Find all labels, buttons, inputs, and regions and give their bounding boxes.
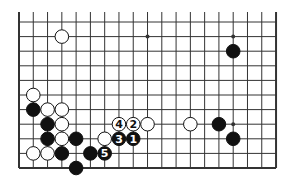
stone-body bbox=[41, 117, 55, 131]
white-stone bbox=[55, 30, 69, 44]
stone-body bbox=[41, 103, 55, 117]
stone-body bbox=[26, 88, 40, 102]
white-stone bbox=[41, 147, 55, 161]
black-stone-3: 3 bbox=[112, 132, 126, 146]
black-stone bbox=[226, 132, 240, 146]
white-stone bbox=[55, 132, 69, 146]
black-stone bbox=[41, 117, 55, 131]
stone-body bbox=[55, 147, 69, 161]
stone-body bbox=[226, 44, 240, 58]
stone-body bbox=[41, 147, 55, 161]
move-number-label: 5 bbox=[101, 147, 109, 160]
stone-body bbox=[98, 132, 112, 146]
white-stone bbox=[55, 103, 69, 117]
move-number-label: 3 bbox=[115, 133, 123, 146]
black-stone bbox=[69, 132, 83, 146]
stone-body bbox=[55, 30, 69, 44]
move-number-label: 2 bbox=[129, 118, 137, 131]
star-point bbox=[231, 35, 235, 39]
stone-body bbox=[184, 117, 198, 131]
black-stone-1: 1 bbox=[126, 132, 140, 146]
go-board-diagram: 42315 bbox=[0, 0, 287, 188]
black-stone bbox=[69, 161, 83, 175]
white-stone bbox=[98, 132, 112, 146]
white-stone bbox=[26, 88, 40, 102]
stone-body bbox=[141, 117, 155, 131]
white-stone bbox=[141, 117, 155, 131]
move-number-label: 4 bbox=[115, 118, 123, 131]
stone-body bbox=[84, 147, 98, 161]
black-stone bbox=[41, 132, 55, 146]
stone-body bbox=[55, 132, 69, 146]
stone-body bbox=[26, 147, 40, 161]
stone-body bbox=[69, 161, 83, 175]
white-stone bbox=[55, 117, 69, 131]
black-stone bbox=[55, 147, 69, 161]
white-stone bbox=[41, 103, 55, 117]
white-stone bbox=[184, 117, 198, 131]
stone-body bbox=[226, 132, 240, 146]
star-point bbox=[231, 122, 235, 126]
stone-body bbox=[26, 103, 40, 117]
black-stone bbox=[84, 147, 98, 161]
white-stone-4: 4 bbox=[112, 117, 126, 131]
white-stone bbox=[26, 147, 40, 161]
move-number-label: 1 bbox=[129, 133, 137, 146]
black-stone bbox=[212, 117, 226, 131]
black-stone bbox=[26, 103, 40, 117]
stone-body bbox=[55, 117, 69, 131]
black-stone-5: 5 bbox=[98, 147, 112, 161]
stone-body bbox=[41, 132, 55, 146]
stone-body bbox=[69, 132, 83, 146]
stone-body bbox=[212, 117, 226, 131]
stone-body bbox=[55, 103, 69, 117]
white-stone-2: 2 bbox=[126, 117, 140, 131]
star-point bbox=[146, 35, 150, 39]
black-stone bbox=[226, 44, 240, 58]
